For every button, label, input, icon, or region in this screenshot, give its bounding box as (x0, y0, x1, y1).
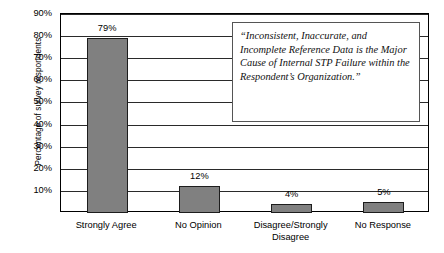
bar-data-label: 12% (190, 171, 209, 181)
bar (179, 186, 220, 213)
y-axis-tick-label: 20% (8, 163, 52, 173)
x-axis-tick-label-line: No Response (355, 220, 411, 232)
y-axis-tick-label: 70% (8, 52, 52, 62)
x-axis-tick-label-line: Disagree (254, 232, 328, 244)
x-axis-tick-label-line: No Opinion (175, 220, 222, 232)
y-axis-title: Percentage of survey respondents (34, 2, 43, 202)
quote-callout: “Inconsistent, Inaccurate, and Incomplet… (232, 22, 420, 122)
y-axis-tick-label: 40% (8, 119, 52, 129)
x-axis-tick-label-line: Disagree/Strongly (254, 220, 328, 232)
x-axis-tick-label-line: Strongly Agree (76, 220, 137, 232)
bar-data-label: 79% (98, 23, 117, 33)
bar (363, 202, 404, 213)
gridline (61, 14, 428, 15)
x-axis-tick-label: No Response (355, 220, 411, 232)
y-axis-tick-label: 10% (8, 185, 52, 195)
y-axis-tick-label: 60% (8, 74, 52, 84)
bar (87, 38, 128, 213)
x-axis-tick-label: Strongly Agree (76, 220, 137, 232)
x-axis-tick-label: No Opinion (175, 220, 222, 232)
y-axis-tick-label: 80% (8, 30, 52, 40)
y-axis-tick-label: 30% (8, 141, 52, 151)
x-axis-tick-label: Disagree/StronglyDisagree (254, 220, 328, 243)
chart-figure: Percentage of survey respondents 10%20%3… (0, 0, 444, 253)
y-axis-tick-label: 90% (8, 8, 52, 18)
bar (271, 204, 312, 213)
y-axis-tick-label: 50% (8, 96, 52, 106)
bar-data-label: 4% (285, 189, 298, 199)
bar-data-label: 5% (377, 187, 390, 197)
